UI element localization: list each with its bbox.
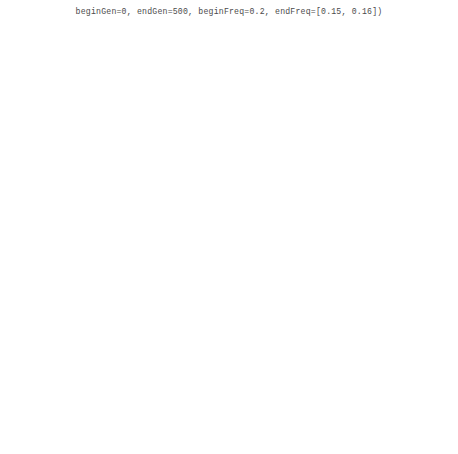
figure-panel-grid	[0, 24, 458, 454]
code-header-line: beginGen=0, endGen=500, beginFreq=0.2, e…	[0, 0, 458, 16]
